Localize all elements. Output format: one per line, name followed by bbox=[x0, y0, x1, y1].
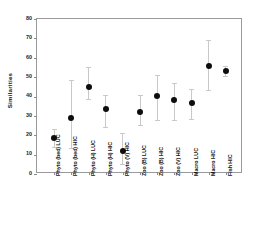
x-axis-label-text: Phyto (H) HIC bbox=[107, 142, 113, 176]
y-axis-tick: 20 bbox=[1, 135, 37, 136]
y-axis-tick-mark bbox=[34, 116, 37, 117]
y-axis-tick-mark bbox=[34, 58, 37, 59]
chart-figure: Similarities 01020304050607080 Phyto (be… bbox=[0, 0, 259, 226]
x-axis-label-text: Fish HIC bbox=[227, 155, 233, 176]
x-axis-label-text: Macro LUC bbox=[193, 148, 199, 176]
y-axis-tick-mark bbox=[34, 155, 37, 156]
data-point-marker bbox=[103, 106, 109, 112]
y-axis-tick-label: 50 bbox=[26, 73, 32, 79]
error-bar-cap bbox=[189, 89, 194, 90]
data-point-marker bbox=[171, 97, 177, 103]
y-axis-tick-mark bbox=[34, 97, 37, 98]
x-axis-labels: Phyto (bed) LUCPhyto (bed) HICPhyto (H) … bbox=[36, 176, 242, 226]
error-bar-cap bbox=[189, 119, 194, 120]
error-bar-cap bbox=[155, 75, 160, 76]
error-bar-cap bbox=[138, 125, 143, 126]
y-axis-tick: 70 bbox=[1, 38, 37, 39]
x-axis-label-text: Zoo (B) HIC bbox=[158, 147, 164, 176]
y-axis-tick-label: 40 bbox=[26, 92, 32, 98]
y-axis-tick-mark bbox=[34, 38, 37, 39]
y-axis-tick-label: 10 bbox=[26, 150, 32, 156]
y-axis-tick: 80 bbox=[1, 19, 37, 20]
error-bar-cap bbox=[155, 120, 160, 121]
x-axis-label-text: Phyto (V) HIC bbox=[124, 142, 130, 176]
y-axis-tick-mark bbox=[34, 135, 37, 136]
y-axis-tick-label: 80 bbox=[26, 15, 32, 21]
data-point-marker bbox=[86, 84, 92, 90]
error-bar-cap bbox=[172, 120, 177, 121]
y-axis-title: Similarities bbox=[2, 0, 18, 180]
y-axis-tick: 0 bbox=[1, 174, 37, 175]
error-bar-cap bbox=[103, 95, 108, 96]
data-point-marker bbox=[137, 109, 143, 115]
x-axis-label-text: Zoo (V) HIC bbox=[175, 147, 181, 176]
data-point-marker bbox=[206, 63, 212, 69]
y-axis-tick-mark bbox=[34, 174, 37, 175]
x-axis-label-text: Macro HIC bbox=[210, 150, 216, 176]
x-axis-label-text: Phyto (bed) LUC bbox=[55, 135, 61, 177]
error-bar-cap bbox=[52, 129, 57, 130]
data-point-marker bbox=[68, 115, 74, 121]
error-bar-cap bbox=[206, 40, 211, 41]
error-bar-cap bbox=[223, 66, 228, 67]
y-axis-tick-label: 20 bbox=[26, 131, 32, 137]
x-axis-label-text: Phyto (bed) HIC bbox=[72, 136, 78, 176]
error-bar-cap bbox=[103, 127, 108, 128]
error-bar-cap bbox=[138, 95, 143, 96]
y-axis-tick-label: 60 bbox=[26, 54, 32, 60]
error-bar-cap bbox=[69, 80, 74, 81]
error-bar-cap bbox=[206, 90, 211, 91]
y-axis-tick: 30 bbox=[1, 116, 37, 117]
data-point-marker bbox=[223, 68, 229, 74]
error-bar-cap bbox=[86, 99, 91, 100]
y-axis-tick: 50 bbox=[1, 77, 37, 78]
y-axis-tick-mark bbox=[34, 77, 37, 78]
y-axis-tick: 10 bbox=[1, 155, 37, 156]
x-axis-label-text: Zoo (B) LUC bbox=[141, 145, 147, 176]
data-point-marker bbox=[189, 100, 195, 106]
y-axis-tick-mark bbox=[34, 19, 37, 20]
error-bar-cap bbox=[172, 83, 177, 84]
error-bar-cap bbox=[223, 76, 228, 77]
y-axis-tick-label: 70 bbox=[26, 34, 32, 40]
error-bar-cap bbox=[86, 67, 91, 68]
y-axis-tick: 40 bbox=[1, 97, 37, 98]
data-point-marker bbox=[154, 93, 160, 99]
y-axis-tick-label: 30 bbox=[26, 112, 32, 118]
y-axis-tick: 60 bbox=[1, 58, 37, 59]
error-bar-cap bbox=[120, 133, 125, 134]
y-axis-tick-label: 0 bbox=[29, 170, 32, 176]
x-axis-label-text: Phyto (H) LUC bbox=[90, 140, 96, 176]
